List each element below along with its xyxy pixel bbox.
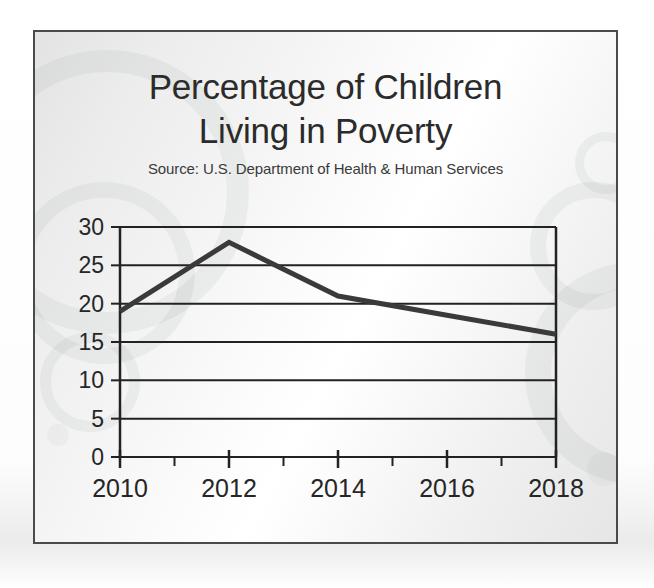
data-series-line xyxy=(120,242,556,334)
x-tick-mark-group xyxy=(120,450,556,468)
y-tick-mark-group xyxy=(111,227,120,457)
y-tick-label: 15 xyxy=(78,329,104,355)
slide-frame: Percentage of Children Living in Poverty… xyxy=(33,30,618,544)
y-tick-label-group: 051015202530 xyxy=(78,214,104,470)
x-tick-label: 2018 xyxy=(528,474,584,502)
x-tick-label: 2010 xyxy=(92,474,148,502)
gridline-group xyxy=(120,227,556,457)
y-tick-label: 30 xyxy=(78,214,104,240)
x-tick-label: 2012 xyxy=(201,474,257,502)
y-tick-label: 10 xyxy=(78,367,104,393)
y-tick-label: 25 xyxy=(78,252,104,278)
y-tick-label: 20 xyxy=(78,291,104,317)
x-tick-label-group: 20102012201420162018 xyxy=(92,474,584,502)
chart-plot-area: 051015202530 20102012201420162018 xyxy=(35,32,616,542)
x-tick-label: 2016 xyxy=(419,474,475,502)
x-tick-label: 2014 xyxy=(310,474,366,502)
y-tick-label: 0 xyxy=(91,444,104,470)
line-chart-svg: 051015202530 20102012201420162018 xyxy=(35,32,616,542)
screenshot-page: Percentage of Children Living in Poverty… xyxy=(0,0,654,588)
y-tick-label: 5 xyxy=(91,406,104,432)
